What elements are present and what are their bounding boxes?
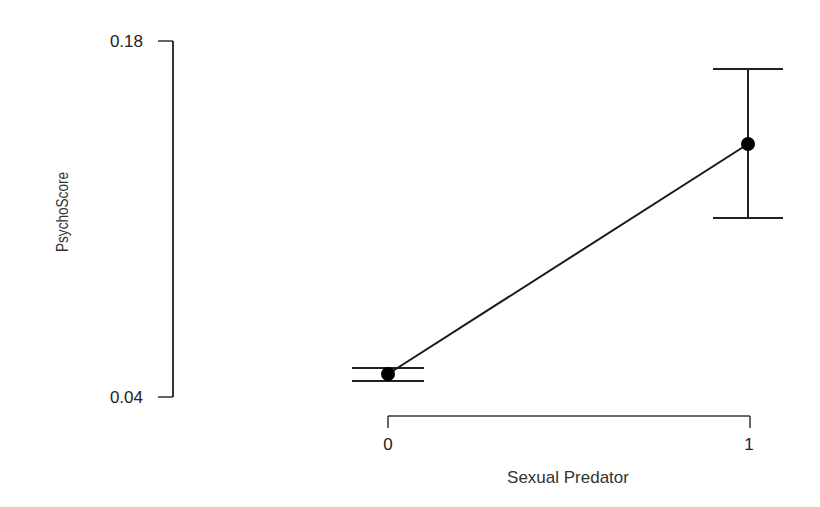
- y-tick-label-top: 0.18: [110, 32, 143, 51]
- x-tick-label-1: 1: [744, 435, 753, 454]
- data-point-0: [381, 367, 395, 381]
- chart: 0.18 0.04 PsychoScore 0 1 Sexual Predato…: [0, 0, 820, 507]
- x-axis-title: Sexual Predator: [507, 468, 629, 487]
- x-axis: 0 1 Sexual Predator: [383, 416, 753, 487]
- data-point-1: [741, 137, 755, 151]
- x-tick-label-0: 0: [383, 435, 392, 454]
- y-tick-label-bottom: 0.04: [110, 388, 143, 407]
- y-axis-title: PsychoScore: [53, 172, 72, 252]
- series-line: [388, 144, 748, 374]
- y-axis: 0.18 0.04 PsychoScore: [53, 32, 173, 407]
